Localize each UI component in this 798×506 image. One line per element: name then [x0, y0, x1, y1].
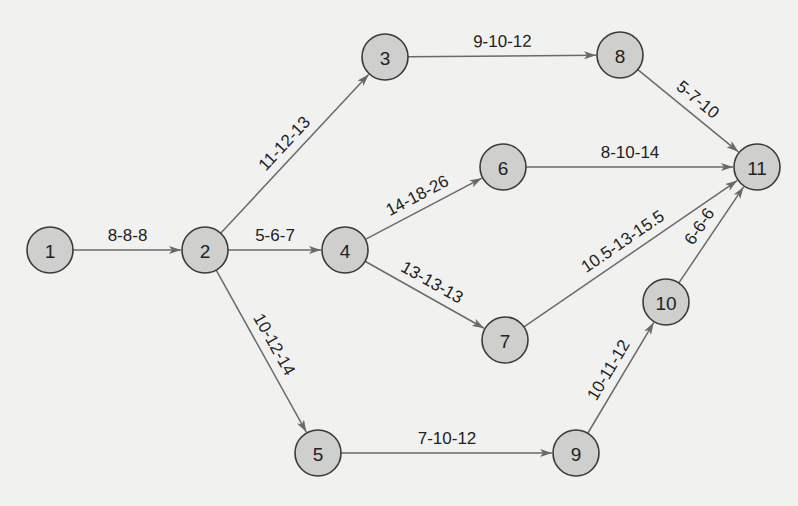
node-6: 6 [480, 144, 526, 190]
node-label: 3 [380, 48, 391, 69]
edge-2-4: 5-6-7 [228, 226, 321, 250]
node-8: 8 [597, 32, 643, 78]
node-5: 5 [295, 430, 341, 476]
node-1: 1 [27, 227, 73, 273]
node-2: 2 [182, 227, 228, 273]
edge-10-11: 6-6-6 [679, 187, 744, 283]
edge-4-6: 14-18-26 [365, 171, 481, 239]
edge-4-7: 13-13-13 [365, 257, 484, 328]
edge-time-estimate-label: 8-10-14 [601, 143, 660, 162]
arrow-icon [216, 270, 306, 432]
node-label: 5 [313, 444, 324, 465]
arrow-icon [524, 181, 737, 327]
edge-7-11: 10.5-13-15.5 [524, 181, 737, 327]
edge-3-8: 9-10-12 [408, 32, 596, 57]
node-3: 3 [362, 34, 408, 80]
edge-6-11: 8-10-14 [526, 143, 733, 167]
edge-9-10: 10-11-12 [583, 323, 653, 434]
node-9: 9 [553, 430, 599, 476]
edge-2-3: 11-12-13 [221, 75, 369, 234]
arrow-icon [408, 55, 596, 57]
edge-time-estimate-label: 5-7-10 [673, 77, 723, 123]
edge-time-estimate-label: 6-6-6 [681, 205, 719, 249]
edges-layer: 8-8-811-12-135-6-710-12-149-10-1214-18-2… [73, 32, 744, 453]
edge-1-2: 8-8-8 [73, 226, 181, 250]
node-label: 10 [655, 293, 676, 314]
edge-2-5: 10-12-14 [216, 270, 306, 432]
node-4: 4 [322, 227, 368, 273]
arrow-icon [221, 75, 369, 234]
edge-time-estimate-label: 7-10-12 [418, 429, 477, 448]
node-7: 7 [482, 317, 528, 363]
edge-time-estimate-label: 5-6-7 [255, 226, 295, 245]
node-label: 11 [747, 158, 767, 179]
node-label: 2 [200, 241, 211, 262]
nodes-layer: 1234567891011 [27, 32, 780, 476]
node-label: 6 [498, 158, 509, 179]
node-11: 11 [734, 144, 780, 190]
edge-5-9: 7-10-12 [341, 429, 552, 453]
node-label: 9 [571, 444, 582, 465]
node-10: 10 [643, 279, 689, 325]
pert-network-diagram: 8-8-811-12-135-6-710-12-149-10-1214-18-2… [0, 0, 798, 506]
node-label: 7 [500, 331, 511, 352]
node-label: 4 [340, 241, 351, 262]
edge-time-estimate-label: 10.5-13-15.5 [578, 206, 668, 276]
node-label: 1 [45, 241, 56, 262]
node-label: 8 [615, 46, 626, 67]
edge-8-11: 5-7-10 [638, 70, 739, 152]
edge-time-estimate-label: 9-10-12 [473, 32, 532, 51]
edge-time-estimate-label: 8-8-8 [108, 226, 148, 245]
